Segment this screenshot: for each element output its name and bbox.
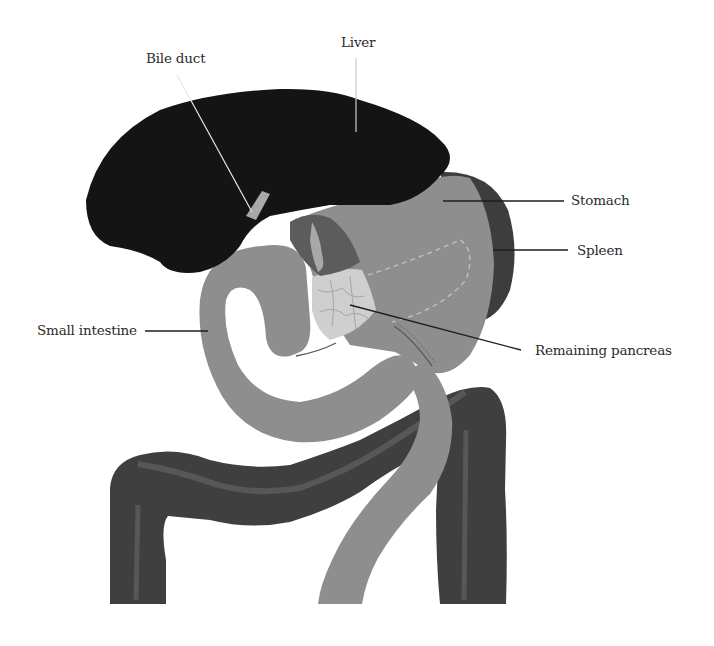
label-small-intestine: Small intestine: [37, 322, 137, 338]
label-remaining-pancreas: Remaining pancreas: [535, 342, 672, 358]
anatomy-diagram: Liver Bile duct Stomach Spleen Small int…: [0, 0, 714, 646]
label-stomach: Stomach: [571, 192, 630, 208]
colon-band-left: [136, 505, 138, 600]
colon-band-right: [464, 430, 466, 600]
label-liver: Liver: [341, 34, 375, 50]
label-spleen: Spleen: [577, 242, 623, 258]
label-bile-duct: Bile duct: [146, 50, 205, 66]
